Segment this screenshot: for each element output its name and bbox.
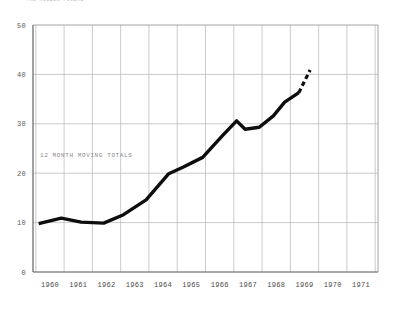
- chart-container: THE HIDDEN FIGURE 01020304050 1960196119…: [0, 0, 393, 309]
- grid-group: [33, 25, 378, 272]
- line-chart: 01020304050 1960196119621963196419651966…: [0, 0, 393, 309]
- x-axis-ticks: 1960196119621963196419651966196719681969…: [41, 281, 370, 289]
- y-axis-tick-label: 10: [17, 219, 26, 227]
- x-axis-tick-label: 1960: [41, 281, 59, 289]
- x-axis-tick-label: 1961: [69, 281, 87, 289]
- y-axis-tick-label: 30: [17, 120, 26, 128]
- x-axis-tick-label: 1962: [98, 281, 116, 289]
- y-axis-tick-label: 40: [17, 71, 26, 79]
- series-annotation-label: 12 MONTH MOVING TOTALS: [40, 152, 132, 159]
- x-axis-tick-label: 1966: [211, 281, 229, 289]
- y-axis-tick-label: 0: [21, 269, 26, 277]
- x-axis-tick-label: 1965: [182, 281, 200, 289]
- series-line-projected: [299, 70, 310, 93]
- y-axis-ticks: 01020304050: [17, 22, 26, 277]
- y-axis-tick-label: 50: [17, 22, 26, 30]
- x-axis-tick-label: 1964: [154, 281, 172, 289]
- y-axis-tick-label: 20: [17, 170, 26, 178]
- x-axis-tick-label: 1968: [267, 281, 285, 289]
- x-axis-tick-label: 1971: [352, 281, 370, 289]
- x-axis-tick-label: 1963: [126, 281, 144, 289]
- data-series-group: [39, 70, 310, 224]
- x-axis-tick-label: 1970: [324, 281, 342, 289]
- x-axis-tick-label: 1969: [295, 281, 313, 289]
- x-axis-tick-label: 1967: [239, 281, 257, 289]
